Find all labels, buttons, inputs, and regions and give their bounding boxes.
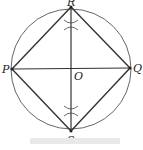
label-Q: Q: [133, 62, 142, 75]
point-Q: [129, 67, 132, 70]
label-P: P: [1, 63, 10, 76]
segment-RQ: [71, 7, 130, 68]
point-S: [70, 130, 73, 133]
geometry-diagram: R S P Q O: [0, 0, 143, 150]
label-R: R: [66, 0, 75, 9]
point-P: [11, 68, 14, 71]
label-O: O: [74, 70, 83, 83]
figure-caption-smudge: [30, 138, 120, 144]
